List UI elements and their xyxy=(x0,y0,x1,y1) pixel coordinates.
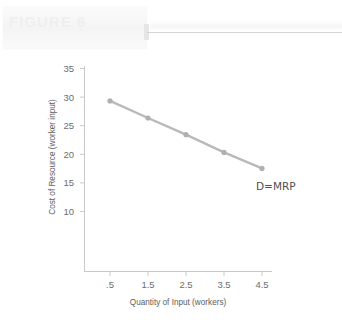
y-tick-label: 30 xyxy=(63,92,74,103)
demand-curve-chart: 35 30 25 20 15 10 .5 1.5 2.5 3.5 4.5 xyxy=(0,60,342,320)
y-tick-label: 20 xyxy=(63,149,74,160)
x-tick-label: .5 xyxy=(106,279,114,290)
data-point xyxy=(183,132,188,137)
x-axis-ticks xyxy=(110,272,262,277)
scan-artifact-band: FIGURE 6 xyxy=(0,0,342,60)
data-point xyxy=(259,166,264,171)
faded-caption-text: FIGURE 6 xyxy=(9,14,137,30)
horizontal-rule xyxy=(147,32,342,33)
y-tick-label: 35 xyxy=(63,63,74,74)
series-annotation-label: D=MRP xyxy=(256,180,296,192)
data-point xyxy=(107,98,112,103)
x-tick-label: 2.5 xyxy=(179,279,192,290)
y-tick-label: 10 xyxy=(63,206,74,217)
y-tick-label: 15 xyxy=(63,177,74,188)
x-tick-label: 3.5 xyxy=(217,279,230,290)
y-tick-label: 25 xyxy=(63,120,74,131)
artifact-smudge xyxy=(150,20,342,31)
data-point xyxy=(221,150,226,155)
y-axis-ticks xyxy=(80,69,85,212)
x-axis-title: Quantity of Input (workers) xyxy=(130,298,227,307)
chart-figure: 35 30 25 20 15 10 .5 1.5 2.5 3.5 4.5 xyxy=(0,60,342,320)
x-tick-label: 4.5 xyxy=(255,279,268,290)
faded-title-block: FIGURE 6 xyxy=(3,6,147,48)
x-tick-label: 1.5 xyxy=(141,279,154,290)
data-point xyxy=(145,115,150,120)
y-axis-title: Cost of Resource (worker input) xyxy=(48,99,57,215)
